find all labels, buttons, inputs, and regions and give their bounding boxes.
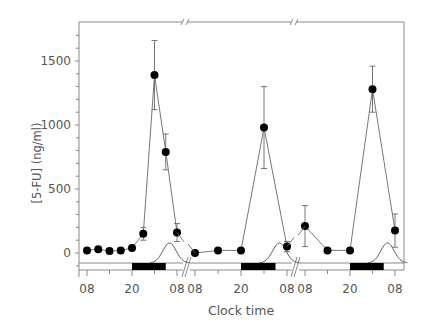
x-tick-label: 20	[342, 282, 357, 296]
data-point	[83, 246, 91, 254]
y-tick-label: 1000	[40, 118, 71, 132]
y-axis: 050010001500	[40, 35, 79, 265]
rhythm-curve	[368, 243, 408, 263]
dark-period-bar	[350, 263, 384, 270]
data-point	[391, 227, 399, 235]
axis-break-icon	[294, 257, 300, 277]
y-tick-label: 1500	[40, 54, 71, 68]
series-line	[195, 128, 287, 253]
data-point	[260, 124, 268, 132]
rhythm-curves	[150, 243, 408, 263]
series-line	[305, 89, 395, 250]
data-point	[237, 246, 245, 254]
data-point	[94, 245, 102, 253]
pk-chart: 050010001500 082008082008082008 [5-FU] (…	[0, 0, 424, 330]
dark-period-bar	[132, 263, 166, 270]
data-point	[162, 148, 170, 156]
data-point	[324, 246, 332, 254]
y-tick-label: 0	[63, 246, 71, 260]
data-point	[214, 246, 222, 254]
data-point	[139, 230, 147, 238]
y-tick-label: 500	[48, 182, 71, 196]
series-line	[87, 75, 177, 251]
x-axis: 082008082008082008	[79, 270, 402, 296]
rhythm-curve	[260, 243, 300, 263]
data-point	[128, 244, 136, 252]
axis-break-icon	[185, 257, 191, 277]
data-point	[369, 85, 377, 93]
data-point	[346, 246, 354, 254]
x-tick-label: 20	[233, 282, 248, 296]
dark-period-bar	[241, 263, 276, 270]
data-point	[151, 71, 159, 79]
plot-frame	[79, 19, 404, 277]
x-tick-label: 08	[279, 282, 294, 296]
x-tick-label: 08	[297, 282, 312, 296]
data-point	[106, 247, 114, 255]
y-axis-label: [5-FU] (ng/ml)	[30, 123, 44, 204]
x-axis-label: Clock time	[208, 303, 274, 318]
data-series	[83, 41, 399, 257]
x-tick-label: 20	[124, 282, 139, 296]
rhythm-curve	[150, 243, 190, 263]
x-tick-label: 08	[79, 282, 94, 296]
x-tick-label: 08	[387, 282, 402, 296]
x-tick-label: 08	[187, 282, 202, 296]
x-tick-label: 08	[169, 282, 184, 296]
data-point	[117, 246, 125, 254]
